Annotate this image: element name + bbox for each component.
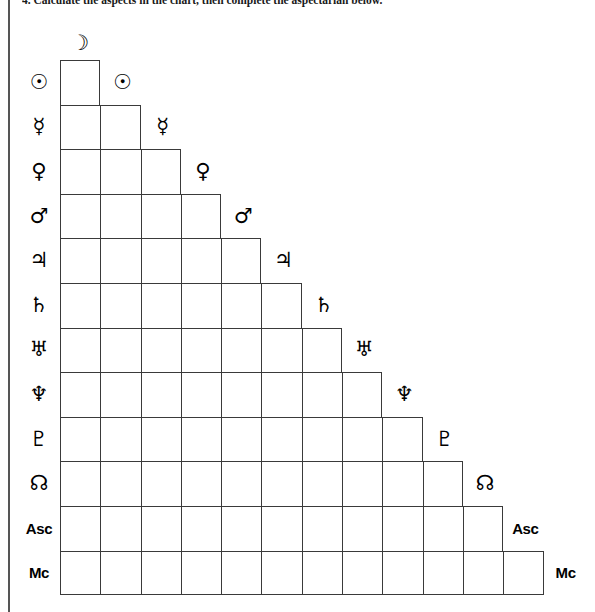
aspect-cell[interactable]: [261, 328, 301, 373]
aspect-cell[interactable]: [60, 461, 100, 506]
aspect-cell[interactable]: [382, 461, 422, 506]
grid-row: [60, 105, 141, 150]
aspect-cell[interactable]: [261, 461, 301, 506]
aspect-cell[interactable]: [302, 328, 342, 373]
aspect-cell[interactable]: [100, 328, 140, 373]
aspectarian-grid[interactable]: [60, 60, 544, 596]
aspect-cell[interactable]: [60, 372, 100, 417]
aspect-cell[interactable]: [342, 551, 382, 596]
diagonal-label-ascendant: Asc: [505, 506, 545, 551]
aspect-cell[interactable]: [60, 283, 100, 328]
aspect-cell[interactable]: [100, 372, 140, 417]
aspect-cell[interactable]: [141, 551, 181, 596]
grid-row: [60, 328, 342, 373]
aspect-cell[interactable]: [141, 461, 181, 506]
aspect-cell[interactable]: [463, 506, 503, 551]
diagonal-label-pluto: ♇: [425, 417, 465, 462]
aspect-cell[interactable]: [221, 283, 261, 328]
aspect-cell[interactable]: [60, 551, 100, 596]
row-label-sun: ☉: [22, 60, 56, 105]
aspect-cell[interactable]: [463, 551, 503, 596]
aspect-cell[interactable]: [141, 238, 181, 283]
aspect-cell[interactable]: [100, 283, 140, 328]
aspect-cell[interactable]: [181, 328, 221, 373]
diagonal-label-saturn: ♄: [304, 283, 344, 328]
aspect-cell[interactable]: [221, 417, 261, 462]
aspect-cell[interactable]: [181, 283, 221, 328]
aspect-cell[interactable]: [302, 461, 342, 506]
aspect-cell[interactable]: [221, 328, 261, 373]
aspect-cell[interactable]: [141, 417, 181, 462]
row-label-pluto: ♇: [22, 417, 56, 462]
aspect-cell[interactable]: [423, 551, 463, 596]
aspect-cell[interactable]: [342, 461, 382, 506]
page-margin-rule: [8, 0, 10, 612]
aspect-cell[interactable]: [141, 328, 181, 373]
aspect-cell[interactable]: [302, 417, 342, 462]
aspect-cell[interactable]: [382, 506, 422, 551]
aspect-cell[interactable]: [100, 105, 140, 150]
row-label-mercury: ☿: [22, 105, 56, 150]
aspect-cell[interactable]: [503, 551, 543, 596]
aspect-cell[interactable]: [100, 238, 140, 283]
aspect-cell[interactable]: [181, 506, 221, 551]
aspect-cell[interactable]: [261, 372, 301, 417]
aspect-cell[interactable]: [181, 194, 221, 239]
aspect-cell[interactable]: [181, 551, 221, 596]
aspect-cell[interactable]: [221, 506, 261, 551]
aspect-cell[interactable]: [141, 372, 181, 417]
aspect-cell[interactable]: [261, 417, 301, 462]
aspect-cell[interactable]: [221, 461, 261, 506]
row-label-venus: ♀: [22, 149, 56, 194]
aspect-cell[interactable]: [302, 372, 342, 417]
aspect-cell[interactable]: [100, 149, 140, 194]
aspect-cell[interactable]: [221, 238, 261, 283]
aspect-cell[interactable]: [221, 551, 261, 596]
aspect-cell[interactable]: [60, 238, 100, 283]
aspect-cell[interactable]: [302, 551, 342, 596]
aspect-cell[interactable]: [141, 283, 181, 328]
aspect-cell[interactable]: [60, 194, 100, 239]
grid-row: [60, 461, 463, 506]
row-label-saturn: ♄: [22, 283, 56, 328]
aspect-cell[interactable]: [100, 417, 140, 462]
aspect-cell[interactable]: [60, 328, 100, 373]
aspect-cell[interactable]: [181, 461, 221, 506]
aspect-cell[interactable]: [141, 506, 181, 551]
aspect-cell[interactable]: [100, 461, 140, 506]
diagonal-label-mars: ♂: [223, 194, 263, 239]
aspect-cell[interactable]: [423, 461, 463, 506]
aspect-cell[interactable]: [261, 551, 301, 596]
aspect-cell[interactable]: [342, 506, 382, 551]
aspect-cell[interactable]: [60, 506, 100, 551]
aspect-cell[interactable]: [181, 417, 221, 462]
aspect-cell[interactable]: [100, 194, 140, 239]
aspect-cell[interactable]: [382, 417, 422, 462]
aspect-cell[interactable]: [382, 551, 422, 596]
aspect-cell[interactable]: [100, 506, 140, 551]
row-label-north-node: ☊: [22, 461, 56, 506]
aspect-cell[interactable]: [60, 149, 100, 194]
aspect-cell[interactable]: [342, 417, 382, 462]
aspect-cell[interactable]: [261, 506, 301, 551]
aspect-cell[interactable]: [181, 238, 221, 283]
aspect-cell[interactable]: [302, 506, 342, 551]
aspect-cell[interactable]: [261, 283, 301, 328]
row-label-ascendant: Asc: [22, 506, 56, 551]
diagonal-label-jupiter: ♃: [264, 238, 304, 283]
aspect-cell[interactable]: [141, 149, 181, 194]
aspect-cell[interactable]: [60, 417, 100, 462]
grid-row: [60, 149, 181, 194]
grid-row: [60, 417, 423, 462]
aspect-cell[interactable]: [423, 506, 463, 551]
aspect-cell[interactable]: [342, 372, 382, 417]
diagonal-label-uranus: ♅: [344, 328, 384, 373]
grid-row: [60, 551, 544, 596]
aspect-cell[interactable]: [141, 194, 181, 239]
aspect-cell[interactable]: [181, 372, 221, 417]
aspect-cell[interactable]: [60, 60, 100, 105]
aspect-cell[interactable]: [221, 372, 261, 417]
grid-row: [60, 60, 100, 105]
aspect-cell[interactable]: [60, 105, 100, 150]
aspect-cell[interactable]: [100, 551, 140, 596]
